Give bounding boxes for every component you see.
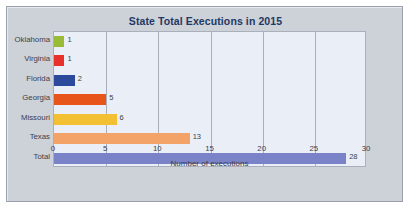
x-tick-5: 5 bbox=[103, 144, 107, 153]
category-label-florida: Florida bbox=[26, 74, 50, 83]
x-tick-30: 30 bbox=[362, 144, 371, 153]
x-tick-25: 25 bbox=[309, 144, 318, 153]
bar-value-florida: 2 bbox=[78, 74, 82, 83]
chart-title: State Total Executions in 2015 bbox=[7, 15, 404, 27]
bar-row: Florida2 bbox=[54, 71, 365, 90]
bar-row: Georgia5 bbox=[54, 90, 365, 109]
x-tick-15: 15 bbox=[205, 144, 214, 153]
bar-florida[interactable] bbox=[54, 75, 75, 86]
bar-row: Oklahoma1 bbox=[54, 32, 365, 51]
category-label-georgia: Georgia bbox=[22, 93, 50, 102]
bar-missouri[interactable] bbox=[54, 114, 117, 125]
bar-row: Missouri6 bbox=[54, 110, 365, 129]
x-axis-label: Number of executions bbox=[53, 159, 366, 168]
category-label-texas: Texas bbox=[30, 132, 50, 141]
bar-value-missouri: 6 bbox=[120, 113, 124, 122]
bar-oklahoma[interactable] bbox=[54, 36, 64, 47]
bar-row: Virginia1 bbox=[54, 51, 365, 70]
bar-value-georgia: 5 bbox=[109, 93, 113, 102]
bar-texas[interactable] bbox=[54, 133, 190, 144]
bar-value-oklahoma: 1 bbox=[67, 35, 71, 44]
bar-value-texas: 13 bbox=[193, 132, 201, 141]
x-tick-20: 20 bbox=[257, 144, 266, 153]
category-label-virginia: Virginia bbox=[24, 54, 50, 63]
x-tick-0: 0 bbox=[51, 144, 55, 153]
bar-georgia[interactable] bbox=[54, 94, 106, 105]
bar-value-virginia: 1 bbox=[67, 54, 71, 63]
category-label-missouri: Missouri bbox=[21, 113, 50, 122]
bar-virginia[interactable] bbox=[54, 55, 64, 66]
category-label-total: Total bbox=[34, 152, 50, 161]
chart-figure: State Total Executions in 2015 Oklahoma1… bbox=[0, 0, 411, 215]
x-tick-10: 10 bbox=[153, 144, 162, 153]
chart-panel: State Total Executions in 2015 Oklahoma1… bbox=[6, 6, 403, 202]
category-label-oklahoma: Oklahoma bbox=[14, 35, 50, 44]
